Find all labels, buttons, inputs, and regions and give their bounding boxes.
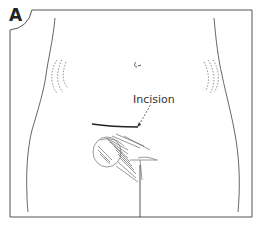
incision-callout-label: Incision: [133, 93, 175, 106]
groin-hatching: [93, 134, 158, 182]
anatomical-illustration: [0, 0, 258, 225]
panel-label: A: [9, 5, 22, 25]
body-outline: [27, 18, 240, 212]
figure-frame: [10, 10, 252, 217]
navel: [135, 62, 141, 67]
incision-line: [92, 104, 151, 127]
